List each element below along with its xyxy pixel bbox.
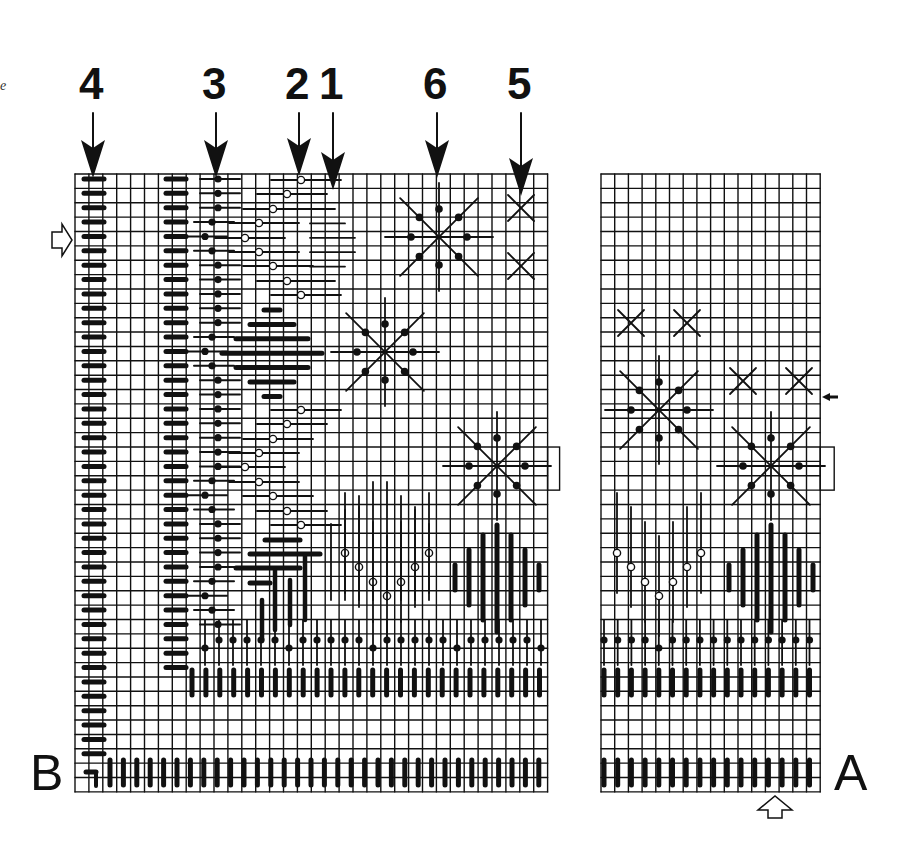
star-stitch-icon: [331, 298, 439, 406]
star-stitch-icon: [385, 183, 493, 291]
arrow-right-outline-icon: [52, 224, 72, 256]
right-grid: [601, 174, 834, 792]
stitch-chart: [0, 0, 902, 844]
arrow-left-small-icon: [822, 393, 838, 401]
column-arrows: [81, 113, 533, 196]
stitch-marks: [84, 175, 825, 786]
arrow-up-outline-icon: [758, 796, 792, 818]
star-stitch-icon: [717, 412, 825, 520]
star-stitch-icon: [443, 412, 551, 520]
star-stitch-icon: [605, 356, 713, 464]
placement-markers: [52, 224, 838, 818]
